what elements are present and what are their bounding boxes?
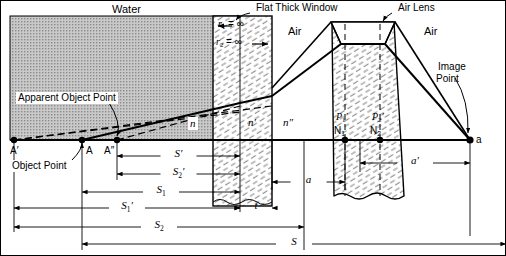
callout-object-point: Object Point (10, 160, 68, 172)
dimension-label-a-prime: a′ (399, 155, 431, 166)
dimension-label-a-gap: a (293, 174, 325, 185)
dimension-label-s1: S1 (145, 184, 177, 197)
label-point-a: A (86, 146, 93, 156)
label-n2: N2 (370, 126, 381, 138)
dimension-label-s-prime: S′ (163, 148, 195, 159)
dimension-label-t: t (240, 200, 272, 211)
label-index-n-double-prime: n″ (283, 117, 293, 128)
label-index-n: n (188, 117, 198, 130)
label-air-lens: Air Lens (398, 3, 435, 13)
dimension-label-s2: S2 (143, 219, 175, 232)
label-index-n-prime: n′ (248, 117, 256, 128)
diagram-canvas (0, 0, 506, 256)
water-region (10, 16, 240, 140)
callout-apparent-object-point: Apparent Object Point (16, 92, 118, 104)
label-air-left: Air (288, 26, 301, 37)
label-n1: N1 (334, 126, 345, 138)
label-water: Water (112, 4, 141, 15)
label-air-right: Air (424, 26, 437, 37)
callout-image-point-line2: Point (436, 74, 459, 84)
label-r1: r1 = ∞ (218, 19, 244, 31)
dimension-label-s2-prime: S2′ (163, 166, 195, 179)
label-point-a-prime: A′ (10, 146, 19, 156)
label-image-point-a: a (476, 135, 482, 145)
dimension-label-s: S (278, 236, 310, 247)
callout-image-point-line1: Image (438, 62, 466, 72)
label-point-a-double-prime: A″ (104, 146, 114, 156)
optics-ray-diagram: Water Flat Thick Window Air Lens Air Air… (0, 0, 506, 256)
label-flat-thick-window: Flat Thick Window (256, 3, 338, 13)
label-p1-prime: P1′ (336, 112, 348, 124)
label-p2-prime: P2′ (372, 112, 384, 124)
label-r2: r2 = ∞ (216, 37, 242, 49)
dimension-label-s1-prime: S1′ (111, 200, 143, 213)
